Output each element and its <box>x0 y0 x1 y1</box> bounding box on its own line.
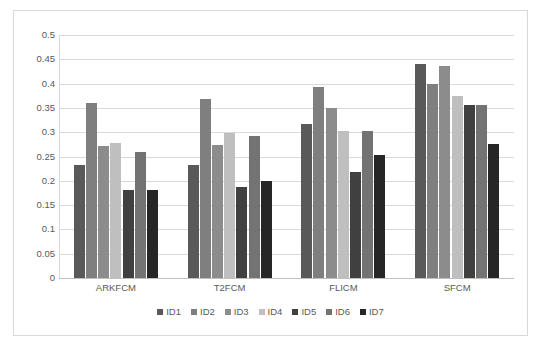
y-axis-tick-label: 0.05 <box>17 249 55 259</box>
legend-item[interactable]: ID4 <box>259 307 283 317</box>
bar-group <box>301 35 385 278</box>
chart-legend: ID1ID2ID3ID4ID5ID6ID7 <box>14 307 527 317</box>
bar[interactable] <box>98 146 109 278</box>
gridline <box>59 278 514 279</box>
bar[interactable] <box>74 165 85 278</box>
y-axis-tick-label: 0 <box>17 273 55 283</box>
legend-swatch-icon <box>259 309 265 315</box>
legend-swatch-icon <box>157 309 163 315</box>
bar[interactable] <box>301 124 312 278</box>
legend-item[interactable]: ID1 <box>157 307 181 317</box>
bar[interactable] <box>188 165 199 278</box>
legend-swatch-icon <box>225 309 231 315</box>
x-axis-category-label: T2FCM <box>173 283 287 293</box>
bar[interactable] <box>86 103 97 278</box>
legend-item[interactable]: ID6 <box>326 307 350 317</box>
y-axis-tick-label: 0.4 <box>17 79 55 89</box>
y-axis-tick-label: 0.5 <box>17 30 55 40</box>
legend-label: ID6 <box>335 307 350 317</box>
bar[interactable] <box>362 131 373 278</box>
bar[interactable] <box>350 172 361 278</box>
x-axis-category-label: FLICM <box>287 283 401 293</box>
bar[interactable] <box>249 136 260 278</box>
bar[interactable] <box>110 143 121 278</box>
bar[interactable] <box>374 155 385 278</box>
legend-item[interactable]: ID5 <box>292 307 316 317</box>
y-axis-tick-label: 0.45 <box>17 54 55 64</box>
legend-label: ID7 <box>369 307 384 317</box>
legend-label: ID4 <box>268 307 283 317</box>
bar[interactable] <box>224 133 235 278</box>
bar-group <box>188 35 272 278</box>
legend-swatch-icon <box>326 309 332 315</box>
bar[interactable] <box>212 145 223 278</box>
y-axis-tick-label: 0.2 <box>17 176 55 186</box>
legend-swatch-icon <box>292 309 298 315</box>
y-axis-tick-labels: 0.50.450.40.350.30.250.20.150.10.050 <box>14 35 55 278</box>
y-axis-tick-label: 0.3 <box>17 127 55 137</box>
legend-label: ID5 <box>301 307 316 317</box>
legend-label: ID1 <box>166 307 181 317</box>
bar[interactable] <box>261 181 272 278</box>
bar[interactable] <box>452 96 463 278</box>
chart-frame: 0.50.450.40.350.30.250.20.150.10.050 ARK… <box>13 10 528 336</box>
bar[interactable] <box>464 105 475 278</box>
legend-swatch-icon <box>360 309 366 315</box>
bar[interactable] <box>439 66 450 278</box>
legend-label: ID2 <box>200 307 215 317</box>
legend-item[interactable]: ID7 <box>360 307 384 317</box>
bar[interactable] <box>123 190 134 278</box>
plot-area <box>59 35 514 278</box>
bar-group <box>415 35 499 278</box>
legend-swatch-icon <box>191 309 197 315</box>
legend-item[interactable]: ID3 <box>225 307 249 317</box>
bar[interactable] <box>200 99 211 278</box>
bar[interactable] <box>135 152 146 278</box>
x-axis-category-label: SFCM <box>400 283 514 293</box>
bar[interactable] <box>338 131 349 278</box>
x-axis-category-labels: ARKFCMT2FCMFLICMSFCM <box>59 283 514 299</box>
bar[interactable] <box>236 187 247 278</box>
y-axis-tick-label: 0.15 <box>17 200 55 210</box>
y-axis-tick-label: 0.1 <box>17 224 55 234</box>
bar[interactable] <box>147 190 158 278</box>
bar[interactable] <box>427 84 438 278</box>
bar[interactable] <box>313 87 324 278</box>
bar[interactable] <box>415 64 426 278</box>
y-axis-tick-label: 0.35 <box>17 103 55 113</box>
bar[interactable] <box>488 144 499 278</box>
bar-group <box>74 35 158 278</box>
legend-label: ID3 <box>234 307 249 317</box>
y-axis-tick-label: 0.25 <box>17 152 55 162</box>
bar[interactable] <box>476 105 487 278</box>
x-axis-category-label: ARKFCM <box>59 283 173 293</box>
legend-item[interactable]: ID2 <box>191 307 215 317</box>
bar[interactable] <box>326 108 337 278</box>
